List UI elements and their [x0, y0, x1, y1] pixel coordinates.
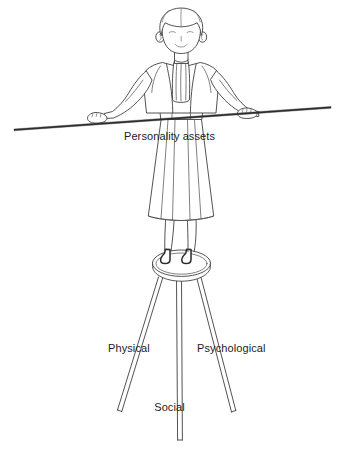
- shoe-left: [161, 249, 170, 263]
- label-psychological: Psychological: [197, 342, 266, 355]
- balance-figure-illustration: [0, 0, 339, 456]
- illustration-canvas: Personality assets Physical Psychologica…: [0, 0, 339, 456]
- head-group: [156, 8, 207, 54]
- scarf-group: [172, 62, 189, 103]
- label-personality-assets: Personality assets: [124, 130, 215, 143]
- stool-leg-center: [177, 276, 183, 440]
- label-physical: Physical: [108, 342, 150, 355]
- hand-left: [88, 112, 108, 123]
- label-social: Social: [154, 401, 185, 414]
